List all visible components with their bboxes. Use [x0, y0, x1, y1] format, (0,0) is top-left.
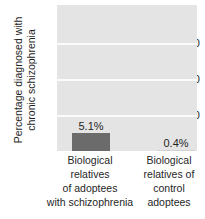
y-axis-title-line-2: chronic schizophrenia — [25, 29, 38, 131]
bar-value-label-1: 5.1% — [66, 120, 116, 132]
x-category-label-1: Biological relatives of control adoptees — [135, 154, 203, 210]
x-category-label-0-line-1: Biological — [45, 154, 135, 168]
bar-biological-relatives-control — [157, 150, 195, 151]
gridline-20 — [57, 79, 197, 81]
gridline-30 — [57, 43, 197, 45]
y-axis-title: Percentage diagnosed with chronic schizo… — [8, 5, 42, 155]
x-category-label-0-line-4: with schizophrenia — [45, 196, 135, 210]
x-category-label-0-line-3: of adoptees — [45, 182, 135, 196]
plot-area: 5.1% 0.4% — [57, 5, 197, 151]
x-axis-category-labels: Biological relatives of adoptees with sc… — [45, 154, 203, 216]
x-category-label-1-line-3: control — [135, 182, 203, 196]
x-category-label-1-line-4: adoptees — [135, 196, 203, 210]
x-category-label-0: Biological relatives of adoptees with sc… — [45, 154, 135, 210]
x-category-label-1-line-1: Biological — [135, 154, 203, 168]
gridline-10 — [57, 115, 197, 117]
x-category-label-0-line-2: relatives — [45, 168, 135, 182]
x-category-label-1-line-2: relatives of — [135, 168, 203, 182]
bar-chart-figure: Percentage diagnosed with chronic schizo… — [0, 0, 205, 219]
y-axis-title-line-1: Percentage diagnosed with — [12, 17, 25, 144]
bar-biological-relatives-schizophrenia — [72, 133, 110, 151]
bar-value-label-2: 0.4% — [151, 137, 197, 149]
